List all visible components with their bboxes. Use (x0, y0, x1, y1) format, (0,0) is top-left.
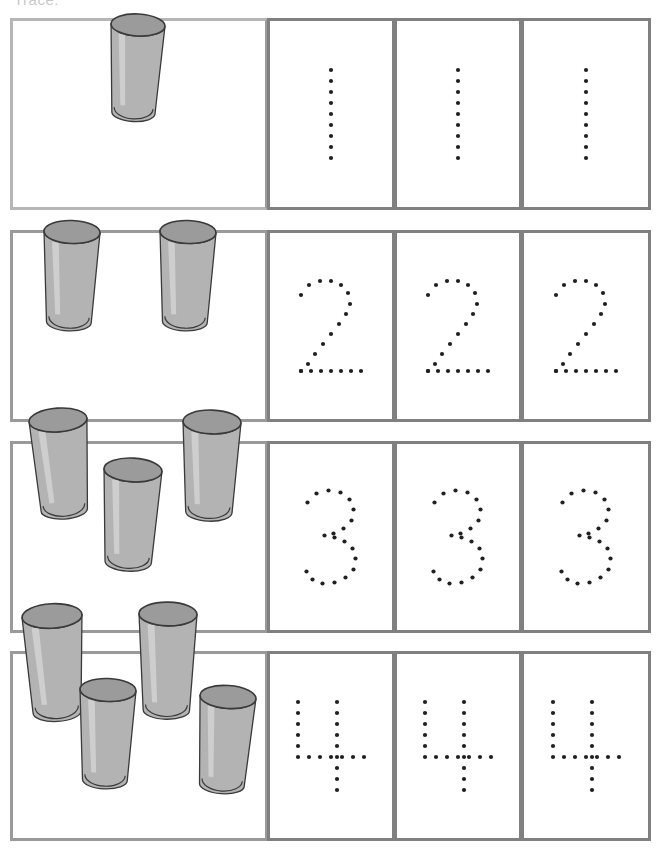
trace-dot (329, 369, 333, 373)
trace-dot (319, 369, 323, 373)
trace-dot (423, 700, 427, 704)
trace-dot (594, 369, 598, 373)
trace-cell-row-3-col-3[interactable] (521, 441, 651, 633)
trace-dot (462, 755, 466, 759)
trace-cell-row-2-col-3[interactable] (521, 230, 651, 422)
dot-group (584, 68, 588, 160)
trace-dot (462, 700, 466, 704)
trace-dot (329, 112, 333, 116)
trace-dot (467, 755, 471, 759)
trace-dot (313, 352, 317, 356)
trace-dot (351, 567, 355, 571)
trace-dot (437, 577, 441, 581)
trace-dot (486, 369, 490, 373)
trace-dot (584, 123, 588, 127)
trace-dot (573, 755, 577, 759)
trace-cell-row-4-col-1[interactable] (267, 651, 395, 841)
trace-cell-row-4-col-3[interactable] (521, 651, 651, 841)
cups-group-row-3 (13, 444, 265, 630)
dot-group (554, 279, 618, 373)
trace-dot (446, 369, 450, 373)
trace-cell-row-1-col-3[interactable] (521, 18, 651, 210)
cups-group-row-4 (13, 654, 265, 838)
trace-dot (306, 362, 310, 366)
trace-dot (464, 322, 468, 326)
trace-dot (299, 369, 303, 373)
trace-dot (577, 533, 581, 537)
dot-numeral-1-a (270, 21, 392, 207)
trace-dot (456, 156, 460, 160)
trace-dot (344, 312, 348, 316)
dot-numeral-svg (524, 654, 648, 838)
trace-dot (423, 744, 427, 748)
trace-dot (475, 302, 479, 306)
trace-dot (341, 526, 345, 530)
count-cell-row-1[interactable] (10, 18, 268, 210)
trace-cell-row-2-col-1[interactable] (267, 230, 395, 422)
trace-dot (346, 291, 350, 295)
trace-dot (441, 491, 445, 495)
dot-numeral-2-a (270, 233, 392, 419)
trace-dot (349, 369, 353, 373)
trace-dot (466, 283, 470, 287)
trace-dot (564, 369, 568, 373)
cup-glass (106, 13, 166, 123)
trace-dot (329, 332, 333, 336)
trace-dot (595, 755, 599, 759)
count-cell-row-4[interactable] (10, 651, 268, 841)
trace-dot (584, 755, 588, 759)
trace-dot (456, 279, 460, 283)
trace-dot (340, 755, 344, 759)
dot-group (456, 68, 460, 160)
trace-dot (586, 531, 590, 535)
trace-dot (335, 777, 339, 781)
trace-dot (587, 580, 591, 584)
trace-dot (456, 145, 460, 149)
trace-dot (329, 90, 333, 94)
dot-numeral-4-a (270, 654, 392, 838)
trace-dot (562, 283, 566, 287)
trace-dot (551, 711, 555, 715)
trace-dot (478, 567, 482, 571)
trace-dot (342, 539, 346, 543)
worksheet-row-2 (10, 230, 651, 422)
trace-cell-row-2-col-2[interactable] (394, 230, 522, 422)
trace-cell-row-4-col-2[interactable] (394, 651, 522, 841)
trace-dot (470, 575, 474, 579)
dot-numeral-3-c (524, 444, 648, 630)
trace-dot (473, 291, 477, 295)
trace-dot (326, 488, 330, 492)
trace-dot (335, 700, 339, 704)
trace-dot (359, 369, 363, 373)
dot-group (426, 279, 490, 373)
trace-dot (348, 302, 352, 306)
trace-dot (593, 490, 597, 494)
trace-dot (587, 535, 591, 539)
trace-dot (318, 755, 322, 759)
dot-group (431, 488, 484, 585)
dot-numeral-svg (397, 21, 519, 207)
trace-dot (307, 283, 311, 287)
trace-dot (489, 755, 493, 759)
trace-dot (351, 755, 355, 759)
worksheet-title: Trace: (14, 0, 59, 8)
trace-dot (592, 322, 596, 326)
trace-dot (434, 283, 438, 287)
trace-cell-row-1-col-1[interactable] (267, 18, 395, 210)
trace-dot (310, 577, 314, 581)
trace-cell-row-1-col-2[interactable] (394, 18, 522, 210)
dot-numeral-3-a (270, 444, 392, 630)
trace-cell-row-3-col-2[interactable] (394, 441, 522, 633)
trace-dot (478, 755, 482, 759)
trace-dot (318, 279, 322, 283)
trace-dot (605, 546, 609, 550)
count-cell-row-2[interactable] (10, 230, 268, 422)
trace-dot (551, 733, 555, 737)
trace-dot (551, 700, 555, 704)
cup-glass (77, 678, 137, 790)
trace-dot (456, 90, 460, 94)
dot-numeral-2-b (397, 233, 519, 419)
trace-dot (332, 580, 336, 584)
trace-dot (590, 755, 594, 759)
trace-cell-row-3-col-1[interactable] (267, 441, 395, 633)
